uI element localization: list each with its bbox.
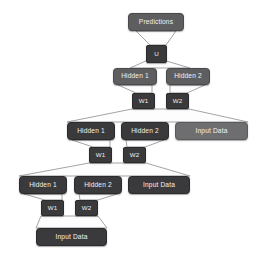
node-label: Hidden 2 (174, 73, 202, 80)
node-label: Hidden 1 (77, 128, 105, 135)
node-in-r2[interactable]: Input Data (175, 122, 248, 140)
node-h1-r1[interactable]: Hidden 1 (113, 68, 157, 85)
node-predictions[interactable]: Predictions (128, 13, 184, 31)
node-in-r4[interactable]: Input Data (36, 228, 107, 246)
edge-connector (19, 163, 190, 176)
node-label: Input Data (196, 128, 228, 135)
edge-connector (118, 85, 152, 93)
edge-connector (136, 31, 176, 45)
node-h2-r2[interactable]: Hidden 2 (121, 122, 169, 140)
node-w2-r1[interactable]: W2 (166, 93, 189, 109)
edge-connector (67, 109, 248, 122)
node-h2-r3[interactable]: Hidden 2 (74, 176, 122, 194)
node-label: W2 (173, 98, 183, 104)
node-label: Hidden 1 (29, 182, 57, 189)
node-w1-r3[interactable]: W1 (41, 200, 64, 216)
node-label: Hidden 2 (84, 182, 112, 189)
node-label: Input Data (143, 182, 175, 189)
edge-connector (72, 140, 110, 147)
node-label: Hidden 2 (131, 128, 159, 135)
node-label: W1 (96, 152, 106, 158)
node-label: W2 (130, 152, 140, 158)
node-h1-r3[interactable]: Hidden 1 (19, 176, 67, 194)
node-w2-r2[interactable]: W2 (123, 147, 146, 163)
node-h2-r1[interactable]: Hidden 2 (166, 68, 210, 85)
edge-connector (36, 216, 107, 228)
node-label: W2 (82, 205, 92, 211)
node-label: W1 (139, 98, 149, 104)
edge-connector (126, 140, 164, 147)
edge-connector (170, 85, 205, 93)
node-label: U (154, 51, 159, 57)
diagram-canvas: PredictionsUHidden 1Hidden 2W1W2Hidden 1… (0, 0, 262, 264)
node-label: W1 (48, 205, 58, 211)
node-u[interactable]: U (146, 45, 167, 63)
node-w1-r2[interactable]: W1 (89, 147, 112, 163)
node-w2-r3[interactable]: W2 (75, 200, 98, 216)
node-label: Predictions (139, 19, 173, 26)
node-w1-r1[interactable]: W1 (132, 93, 155, 109)
node-in-r3[interactable]: Input Data (128, 176, 190, 194)
node-h1-r2[interactable]: Hidden 1 (67, 122, 115, 140)
node-label: Hidden 1 (121, 73, 149, 80)
node-label: Input Data (56, 234, 88, 241)
